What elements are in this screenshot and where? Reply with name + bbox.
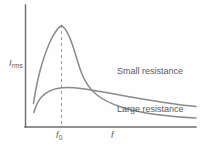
y-axis-label-subscript: rms	[12, 62, 23, 69]
x-axis-label: f	[111, 131, 114, 140]
resonance-curve-figure: Irms f0 f Small resistance Large resista…	[0, 0, 201, 149]
x-axis-tick-label-f0-subscript: 0	[59, 134, 63, 141]
annotation-large-resistance: Large resistance	[117, 105, 184, 114]
annotation-small-resistance: Small resistance	[117, 67, 183, 76]
y-axis-label: Irms	[9, 59, 22, 68]
x-axis-tick-label-f0: f0	[56, 131, 62, 140]
